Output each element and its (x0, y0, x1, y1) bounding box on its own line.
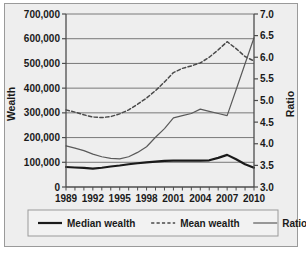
y2-axis-title: Ratio (284, 91, 296, 117)
y2-tick-label: 6.0 (260, 52, 274, 63)
x-tick-label: 2001 (162, 193, 185, 204)
chart-legend: Median wealthMean wealthRatio (28, 210, 306, 236)
y2-tick-label: 5.0 (260, 95, 274, 106)
y2-tick-label: 4.5 (260, 117, 274, 128)
y-tick-label: 400,000 (24, 83, 61, 94)
legend-label-ratio: Ratio (282, 218, 306, 229)
chart-canvas: 0100,000200,000300,000400,000500,000600,… (0, 0, 306, 254)
y2-tick-label: 7.0 (260, 9, 274, 20)
legend-label-mean-wealth: Mean wealth (180, 218, 239, 229)
y-tick-label: 600,000 (24, 33, 61, 44)
y2-tick-label: 6.5 (260, 30, 274, 41)
x-tick-label: 1989 (55, 193, 78, 204)
y2-tick-label: 3.0 (260, 182, 274, 193)
x-tick-label: 2010 (243, 193, 266, 204)
y-tick-label: 0 (54, 182, 60, 193)
y-tick-label: 300,000 (24, 107, 61, 118)
x-tick-label: 1998 (135, 193, 158, 204)
y-axis-title: Wealth (5, 87, 17, 121)
y-tick-label: 700,000 (24, 9, 61, 20)
y2-tick-label: 3.5 (260, 160, 274, 171)
wealth-ratio-line-chart: 0100,000200,000300,000400,000500,000600,… (0, 0, 306, 254)
y-tick-label: 500,000 (24, 58, 61, 69)
y-tick-label: 100,000 (24, 157, 61, 168)
y-tick-label: 200,000 (24, 132, 61, 143)
x-tick-label: 2007 (216, 193, 239, 204)
legend-label-median-wealth: Median wealth (67, 218, 135, 229)
x-tick-label: 1992 (82, 193, 105, 204)
y2-tick-label: 4.0 (260, 138, 274, 149)
x-tick-label: 2004 (189, 193, 212, 204)
y2-tick-label: 5.5 (260, 73, 274, 84)
x-tick-label: 1995 (109, 193, 132, 204)
